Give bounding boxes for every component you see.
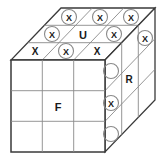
x-mark: X	[63, 47, 69, 57]
top-mark-front-left: X	[32, 46, 39, 57]
x-mark: X	[128, 13, 134, 23]
cube-diagram: F X X X X U X X X X X X R	[0, 0, 165, 159]
cube-svg: F X X X X U X X X X X X R	[0, 0, 165, 159]
x-mark: X	[49, 30, 55, 40]
x-mark: X	[142, 34, 148, 44]
x-mark: X	[97, 13, 103, 23]
x-mark: X	[66, 13, 72, 23]
top-mark-front-right: X	[94, 46, 101, 57]
right-face-label: R	[125, 74, 133, 85]
x-mark: X	[108, 99, 114, 109]
front-face: F	[11, 60, 105, 152]
top-face-label: U	[79, 29, 87, 41]
x-mark: X	[111, 30, 117, 40]
front-face-label: F	[55, 101, 62, 113]
